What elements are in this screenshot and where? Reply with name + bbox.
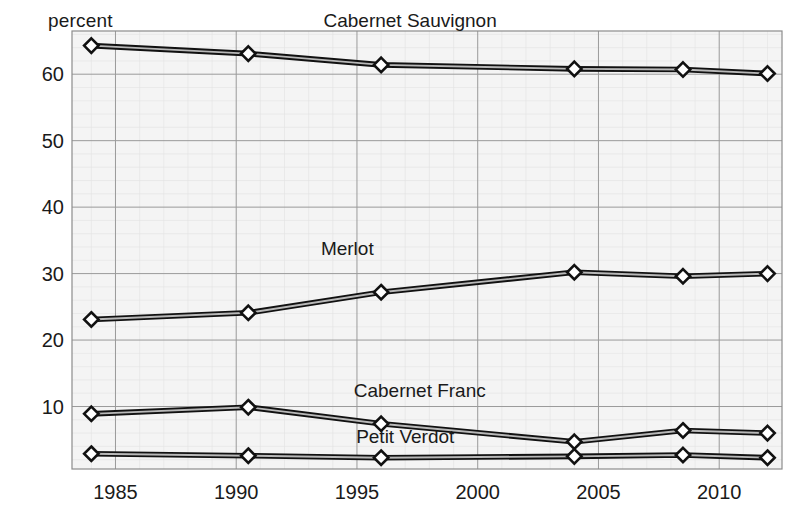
y-axis-title: percent [48, 10, 113, 32]
y-tick-label: 20 [22, 329, 64, 352]
y-tick-label: 10 [22, 395, 64, 418]
chart-canvas [0, 0, 806, 530]
y-tick-label: 40 [22, 196, 64, 219]
y-tick-label: 30 [22, 262, 64, 285]
x-tick-label: 2010 [697, 481, 742, 504]
plot-background [72, 31, 782, 469]
series-label-petit-verdot: Petit Verdot [356, 426, 454, 448]
x-tick-label: 1985 [93, 481, 138, 504]
y-tick-label: 60 [22, 63, 64, 86]
x-tick-label: 2000 [455, 481, 500, 504]
series-label-cabernet-sauvignon: Cabernet Sauvignon [323, 10, 496, 32]
x-tick-label: 1990 [214, 481, 259, 504]
x-tick-label: 2005 [576, 481, 621, 504]
line-chart: percent 102030405060 1985199019952000200… [0, 0, 806, 530]
series-label-merlot: Merlot [321, 238, 374, 260]
x-tick-label: 1995 [335, 481, 380, 504]
y-tick-label: 50 [22, 129, 64, 152]
series-label-cabernet-franc: Cabernet Franc [354, 380, 486, 402]
